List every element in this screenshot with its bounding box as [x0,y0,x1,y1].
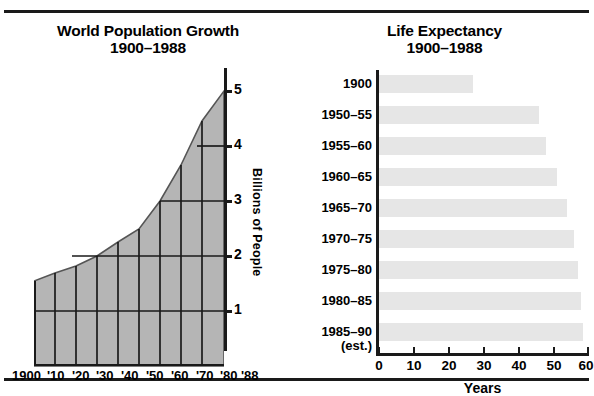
life-chart-title: Life Expectancy 1900–1988 [296,22,593,56]
life-y-axis-line [376,70,379,355]
bar-1900 [379,75,473,93]
x-tick-label-1900: 1900 [12,368,41,383]
bar-track [379,287,593,315]
y-tick-3 [224,200,232,203]
y-tick-label-2: 2 [234,247,242,261]
x-tick-label-20: '20 [72,368,90,383]
bar-1965-70 [379,199,567,217]
y-tick-label-1: 1 [234,302,242,316]
x-tick-label-80: '80 [220,368,238,383]
bar-label-1970-75: 1970–75 [296,232,372,246]
bar-track [379,225,593,253]
population-x-axis-labels: 1900 '10 '20 '30 '40 '50 '60 '70 '80 '88 [12,368,242,386]
life-x-tick-10 [413,347,415,355]
bar-label-1975-80: 1975–80 [296,263,372,277]
life-title-line2: 1900–1988 [296,39,593,56]
population-growth-chart: World Population Growth 1900–1988 [0,18,296,374]
life-x-tick-50 [553,347,555,355]
bar-track [379,101,593,129]
bar-1980-85 [379,292,581,310]
y-tick-2 [224,255,232,258]
life-plot-area: 1900 1950–55 1955–60 1960–65 [296,70,593,360]
bar-label-1950-55: 1950–55 [296,108,372,122]
bar-label-1960-65: 1960–65 [296,170,372,184]
bar-track [379,70,593,98]
bar-label-1965-70: 1965–70 [296,201,372,215]
life-expectancy-chart: Life Expectancy 1900–1988 1900 1950–55 1… [296,18,593,374]
bar-track [379,132,593,160]
bar-label-1955-60: 1955–60 [296,139,372,153]
life-x-tick-label-40: 40 [511,358,526,373]
population-title-line2: 1900–1988 [0,39,296,56]
life-x-axis-title: Years [376,380,589,396]
bar-1985-90 [379,323,583,341]
table-row: 1980–85 [296,287,593,315]
population-y-axis-title: Billions of People [250,168,264,276]
life-x-tick-label-50: 50 [546,358,561,373]
population-area-svg [34,72,224,367]
bar-1950-55 [379,106,539,124]
x-tick-label-50: '50 [146,368,164,383]
top-divider-rule [4,10,589,13]
bar-1970-75 [379,230,574,248]
x-tick-label-40: '40 [121,368,139,383]
life-x-tick-label-10: 10 [406,358,421,373]
y-tick-5 [224,90,232,93]
x-tick-label-88: '88 [241,368,259,383]
life-x-tick-30 [483,347,485,355]
population-area-fill [34,91,224,366]
population-plot-area [34,72,224,367]
y-tick-label-4: 4 [234,137,242,151]
life-x-tick-label-30: 30 [476,358,491,373]
bar-track [379,163,593,191]
table-row: 1900 [296,70,593,98]
population-title-line1: World Population Growth [57,22,239,39]
life-x-tick-label-0: 0 [375,358,383,373]
bar-label-1985-90-est: (est.) [296,339,372,353]
life-x-tick-0 [378,347,380,355]
life-x-tick-60 [587,347,589,355]
bar-label-1980-85: 1980–85 [296,294,372,308]
bar-1955-60 [379,137,546,155]
bar-label-1985-90-years: 1985–90 [321,324,372,339]
bar-1960-65 [379,168,557,186]
y-tick-label-5: 5 [234,82,242,96]
x-tick-label-60: '60 [171,368,189,383]
table-row: 1975–80 [296,256,593,284]
life-x-tick-20 [448,347,450,355]
bar-track [379,318,593,346]
table-row: 1985–90 (est.) [296,318,593,346]
table-row: 1965–70 [296,194,593,222]
life-title-line1: Life Expectancy [387,22,502,39]
bar-1975-80 [379,261,578,279]
life-x-tick-label-60: 60 [578,358,593,373]
bar-label-1985-90: 1985–90 (est.) [296,325,372,353]
y-tick-1 [224,310,232,313]
bar-track [379,194,593,222]
population-y-axis-line [224,68,227,351]
table-row: 1960–65 [296,163,593,191]
x-tick-label-70: '70 [196,368,214,383]
x-tick-label-30: '30 [96,368,114,383]
table-row: 1955–60 [296,132,593,160]
table-row: 1970–75 [296,225,593,253]
x-tick-label-10: '10 [47,368,65,383]
population-chart-title: World Population Growth 1900–1988 [0,22,296,56]
y-tick-label-3: 3 [234,192,242,206]
table-row: 1950–55 [296,101,593,129]
y-tick-4 [224,145,232,148]
life-x-tick-40 [518,347,520,355]
bar-track [379,256,593,284]
bar-label-1900: 1900 [296,77,372,91]
life-x-tick-label-20: 20 [441,358,456,373]
